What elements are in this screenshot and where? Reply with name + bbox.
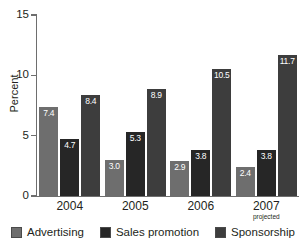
bar-value-label: 4.7 <box>60 141 79 150</box>
chart-legend: AdvertisingSales promotionSponsorship <box>0 226 306 238</box>
plot-area: 7.44.78.43.05.38.92.93.810.52.43.811.7 <box>37 15 299 196</box>
bar: 2.9 <box>170 161 189 196</box>
bar-value-label: 3.0 <box>105 162 124 171</box>
x-axis-category-sublabel: projected <box>236 213 296 221</box>
bar: 5.3 <box>126 132 145 196</box>
bar: 8.9 <box>147 89 166 196</box>
bar: 10.5 <box>212 69 231 196</box>
bar: 7.4 <box>39 107 58 196</box>
legend-item[interactable]: Sales promotion <box>100 226 199 238</box>
bar-value-label: 3.8 <box>191 152 210 161</box>
legend-item[interactable]: Sponsorship <box>215 226 295 238</box>
bar-value-label: 7.4 <box>39 109 58 118</box>
x-axis-category-label: 2007projected <box>236 200 296 221</box>
x-axis-category-label-text: 2004 <box>56 199 83 213</box>
x-axis-category-label-text: 2005 <box>122 199 149 213</box>
legend-swatch-icon <box>11 227 22 238</box>
x-axis-category-label: 2004 <box>40 200 100 213</box>
x-axis-category-label-text: 2006 <box>187 199 214 213</box>
bar-value-label: 5.3 <box>126 134 145 143</box>
bar-value-label: 8.4 <box>81 97 100 106</box>
y-axis-title: Percent <box>9 54 20 134</box>
x-axis-category-label: 2005 <box>105 200 165 213</box>
bar: 4.7 <box>60 139 79 196</box>
legend-item-label: Sponsorship <box>231 226 295 238</box>
bar-value-label: 11.7 <box>278 57 297 66</box>
y-axis-tick-label: 0 <box>3 190 29 202</box>
bar-value-label: 2.9 <box>170 163 189 172</box>
bar: 3.8 <box>191 150 210 196</box>
y-axis-tick-label: 15 <box>3 9 29 21</box>
legend-item-label: Advertising <box>27 226 84 238</box>
legend-swatch-icon <box>100 227 111 238</box>
bar: 11.7 <box>278 55 297 196</box>
bar: 3.0 <box>105 160 124 196</box>
legend-item[interactable]: Advertising <box>11 226 84 238</box>
x-axis-category-label: 2006 <box>171 200 231 213</box>
x-axis-category-label-text: 2007 <box>253 199 280 213</box>
x-axis-line <box>36 196 299 197</box>
legend-item-label: Sales promotion <box>116 226 199 238</box>
bar-value-label: 3.8 <box>257 152 276 161</box>
bar-value-label: 8.9 <box>147 91 166 100</box>
bar: 8.4 <box>81 95 100 196</box>
legend-swatch-icon <box>215 227 226 238</box>
bar-value-label: 10.5 <box>212 71 231 80</box>
bar-value-label: 2.4 <box>236 169 255 178</box>
bar: 3.8 <box>257 150 276 196</box>
bar-chart: 051015 Percent 7.44.78.43.05.38.92.93.81… <box>0 0 306 249</box>
y-axis-tick-label-wrap: 15 <box>0 9 29 21</box>
y-axis-tick-label-wrap: 0 <box>0 190 29 202</box>
bar: 2.4 <box>236 167 255 196</box>
